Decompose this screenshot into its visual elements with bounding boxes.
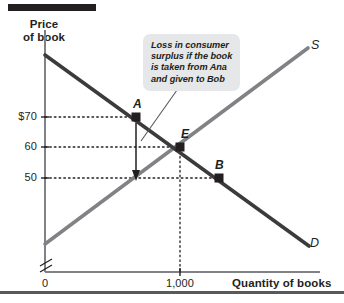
- bottom-rule-decoration: [0, 291, 344, 294]
- demand-curve-label: D: [310, 236, 319, 250]
- quantity-axis-title: Quantity of books: [232, 277, 331, 290]
- annotation-callout: Loss in consumer surplus if the book is …: [143, 34, 240, 91]
- x-tick-label-1000: 1,000: [155, 277, 205, 289]
- annotation-callout-text: Loss in consumer surplus if the book is …: [151, 40, 233, 85]
- point-marker-e: [176, 143, 185, 152]
- y-tick-label-60: 60: [0, 140, 37, 152]
- point-label-e: E: [181, 127, 189, 141]
- point-label-a: A: [133, 97, 142, 111]
- callout-leader-line: [141, 83, 182, 141]
- point-marker-b: [215, 174, 224, 183]
- point-label-b: B: [215, 158, 224, 172]
- point-marker-a: [132, 113, 141, 122]
- figure-canvas: Price of book $70 60 5: [0, 0, 344, 303]
- y-tick-label-70: $70: [0, 110, 37, 122]
- x-tick-label-origin: 0: [20, 277, 70, 289]
- supply-curve-label: S: [311, 38, 319, 52]
- y-tick-label-50: 50: [0, 171, 37, 183]
